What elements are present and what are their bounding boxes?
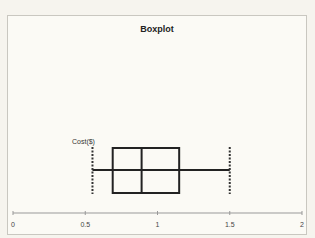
x-tick-label: 1.5 (225, 221, 235, 228)
category-label: Cost($) (72, 138, 95, 145)
box-group (92, 147, 229, 194)
x-tick-label: 0.5 (80, 221, 90, 228)
x-tick-label: 1 (156, 221, 160, 228)
x-tick-label: 2 (300, 221, 304, 228)
x-tick-label: 0 (11, 221, 15, 228)
boxplot-plot (0, 0, 315, 238)
